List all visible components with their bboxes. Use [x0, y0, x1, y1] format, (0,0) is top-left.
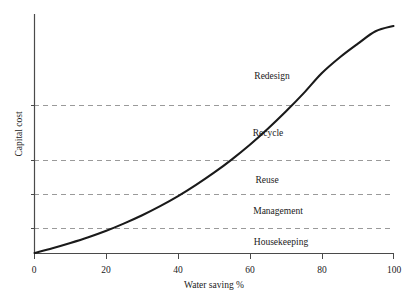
chart-background: [0, 0, 416, 296]
x-tick-label-100: 100: [387, 265, 402, 275]
capital-cost-vs-water-saving-chart: 0 20 40 60 80 100 Water saving % Capital…: [0, 0, 416, 296]
band-label-housekeeping: Housekeeping: [254, 237, 309, 247]
x-tick-label-40: 40: [173, 265, 183, 275]
band-label-redesign: Redesign: [254, 71, 290, 81]
chart-page: 0 20 40 60 80 100 Water saving % Capital…: [0, 0, 416, 296]
x-tick-label-20: 20: [101, 265, 111, 275]
x-tick-label-0: 0: [32, 265, 37, 275]
x-tick-label-60: 60: [245, 265, 255, 275]
y-axis-title: Capital cost: [14, 111, 24, 156]
band-label-reuse: Reuse: [255, 175, 278, 185]
x-tick-label-80: 80: [317, 265, 327, 275]
x-axis-title: Water saving %: [184, 280, 244, 290]
band-label-management: Management: [253, 206, 303, 216]
